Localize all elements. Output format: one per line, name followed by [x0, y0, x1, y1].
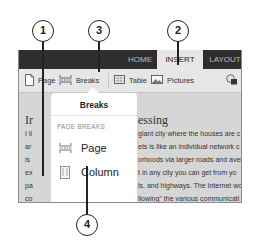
shapes-button[interactable] [226, 69, 242, 92]
doc-line-right: t in any city you can get from yo [138, 169, 236, 176]
page-icon [25, 74, 34, 88]
popover-title: Breaks [51, 93, 137, 116]
toolbar-divider [108, 73, 109, 88]
table-button-label: Table [129, 76, 147, 85]
breaks-popover: Breaks PAGE BREAKS Page Column [51, 93, 137, 203]
doc-line-left: ex [25, 169, 32, 176]
section-label-page-breaks: PAGE BREAKS [57, 123, 105, 130]
menu-item-column-break[interactable]: Column [51, 161, 137, 183]
callout-1-leader [42, 42, 44, 176]
doc-line-left: ar [25, 143, 31, 150]
tab-insert[interactable]: INSERT [157, 50, 203, 69]
callout-1: 1 [32, 20, 54, 42]
breaks-icon [59, 75, 72, 87]
page-button[interactable]: Page [25, 69, 56, 92]
doc-line-right: ls, and highways. The Internet wo [138, 182, 242, 189]
insert-toolbar: Page Breaks Table Pictures [19, 69, 241, 93]
table-button[interactable]: Table [114, 69, 147, 92]
callout-3: 3 [88, 20, 110, 42]
doc-line-left: pa [25, 182, 33, 189]
pictures-icon [151, 75, 163, 86]
doc-line-left: I li [25, 130, 32, 137]
doc-line-right: llowing" the various communicati [138, 195, 239, 202]
shapes-icon [226, 74, 238, 87]
pictures-button-label: Pictures [167, 76, 194, 85]
column-break-icon [57, 166, 73, 179]
pictures-button[interactable]: Pictures [151, 69, 194, 92]
page-button-label: Page [38, 76, 56, 85]
table-icon [114, 75, 125, 86]
callout-4-leader [86, 166, 88, 216]
page-break-icon [57, 143, 73, 153]
tab-home[interactable]: HOME [123, 50, 157, 69]
callout-4: 4 [76, 214, 98, 236]
menu-item-page-break[interactable]: Page [51, 137, 137, 159]
callout-2-leader [177, 42, 179, 65]
breaks-button-label: Breaks [76, 76, 99, 85]
document-heading-left: Ir [25, 113, 33, 128]
doc-line-left: co [25, 195, 32, 202]
tab-layout[interactable]: LAYOUT [205, 50, 242, 69]
doc-line-right: giant city where the houses are c [138, 130, 240, 137]
callout-2: 2 [167, 20, 189, 42]
app-window: HOME INSERT LAYOUT Page Breaks Table [18, 50, 242, 203]
doc-line-right: orhoods via larger roads and aver [138, 156, 242, 163]
doc-line-left: is [25, 156, 30, 163]
ribbon-tab-bar: HOME INSERT LAYOUT [19, 50, 241, 69]
document-heading-right: essing [138, 113, 168, 128]
doc-line-right: ets is like an individual network c [138, 143, 240, 150]
menu-item-page-label: Page [81, 142, 107, 154]
callout-3-leader [98, 42, 100, 72]
